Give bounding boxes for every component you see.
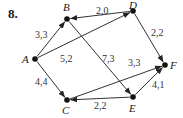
edge-label-a-b: 3,3 — [35, 29, 48, 40]
edge-label-e-c: 2,2 — [94, 100, 107, 111]
node-f — [162, 62, 168, 68]
node-label-e: E — [128, 102, 136, 114]
node-a — [32, 56, 38, 62]
edges-group — [37, 11, 163, 99]
directed-graph: 3,32,05,27,32,23,34,42,24,1 ABDFEC — [0, 0, 183, 118]
edge-d-f — [135, 14, 164, 62]
edge-label-a-d: 5,2 — [60, 53, 73, 64]
edge-b-e — [69, 21, 131, 94]
node-label-b: B — [63, 1, 70, 13]
node-label-d: D — [128, 0, 137, 11]
node-label-a: A — [21, 53, 29, 65]
edge-label-b-e: 7,3 — [102, 53, 115, 64]
edge-label-e-f: 4,1 — [152, 79, 165, 90]
edge-label-a-c: 4,4 — [35, 76, 48, 87]
edge-label-d-b: 2,0 — [96, 5, 109, 16]
node-label-f: F — [169, 59, 177, 71]
node-b — [64, 16, 70, 22]
edge-a-d — [38, 12, 130, 57]
node-e — [130, 94, 136, 100]
node-label-c: C — [62, 104, 70, 116]
edge-label-d-f: 2,2 — [151, 27, 164, 38]
node-c — [64, 97, 70, 103]
edge-label-c-f: 3,3 — [128, 57, 141, 68]
